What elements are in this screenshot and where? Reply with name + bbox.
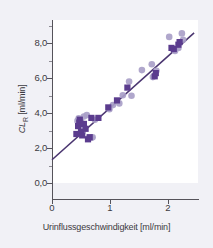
data-point-square — [114, 97, 120, 103]
data-point-circle — [128, 93, 135, 100]
data-point-circle — [166, 34, 173, 41]
y-tick-minor — [49, 26, 52, 27]
x-tick-label: 0 — [45, 202, 59, 213]
data-point-square — [87, 134, 93, 140]
y-axis-title: CLR [ml/min] — [17, 34, 29, 184]
y-tick-major — [47, 43, 52, 44]
data-point-square — [83, 126, 89, 132]
y-tick-major — [47, 183, 52, 184]
x-tick-label: 1 — [103, 202, 117, 213]
x-axis-title: Urinflussgeschwindigkeit [ml/min] — [0, 222, 213, 232]
data-point-square — [153, 70, 159, 76]
data-point-circle — [126, 78, 133, 85]
data-point-circle — [149, 61, 156, 68]
y-tick-minor — [49, 166, 52, 167]
y-tick-major — [47, 78, 52, 79]
y-axis-title-symbol: CL — [17, 122, 27, 133]
y-tick-minor — [49, 131, 52, 132]
y-tick-major — [47, 113, 52, 114]
data-point-circle — [179, 30, 186, 37]
data-point-square — [88, 115, 94, 121]
data-point-circle — [139, 67, 146, 74]
data-point-square — [105, 104, 111, 110]
y-axis-title-subscript: R — [22, 117, 29, 122]
y-axis-title-unit: [ml/min] — [17, 85, 27, 118]
chart-figure: 0,02,04,06,08,0 012 Urinflussgeschwindig… — [0, 0, 213, 248]
x-tick-label: 2 — [161, 202, 175, 213]
y-tick-major — [47, 148, 52, 149]
data-point-square — [79, 132, 85, 138]
y-tick-minor — [49, 61, 52, 62]
data-point-circle — [120, 92, 127, 99]
data-point-square — [177, 39, 183, 45]
y-tick-minor — [49, 96, 52, 97]
data-point-square — [95, 115, 101, 121]
data-point-square — [124, 85, 130, 91]
